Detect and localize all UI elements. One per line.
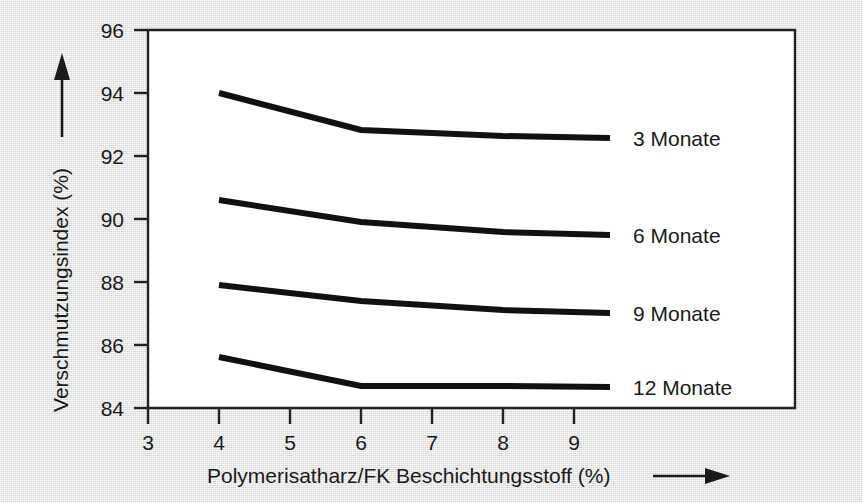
series-label-12-monate: 12 Monate bbox=[633, 376, 732, 399]
y-tick-label: 86 bbox=[101, 334, 124, 357]
y-tick-label: 94 bbox=[101, 82, 125, 105]
y-tick-label: 92 bbox=[101, 145, 124, 168]
y-axis-up-arrow-icon bbox=[54, 53, 70, 137]
y-axis-ticks bbox=[134, 30, 148, 408]
x-axis-tick-labels: 3 4 5 6 7 8 9 bbox=[142, 431, 580, 454]
x-axis-title: Polymerisatharz/FK Beschichtungsstoff (%… bbox=[207, 464, 610, 487]
y-tick-label: 96 bbox=[101, 19, 124, 42]
y-tick-label: 88 bbox=[101, 271, 124, 294]
series-label-6-monate: 6 Monate bbox=[633, 224, 721, 247]
x-tick-label: 6 bbox=[355, 431, 367, 454]
y-axis-title: Verschmutzungsindex (%) bbox=[49, 168, 72, 412]
x-tick-label: 4 bbox=[213, 431, 225, 454]
x-tick-label: 7 bbox=[426, 431, 438, 454]
x-tick-label: 3 bbox=[142, 431, 154, 454]
series-label-9-monate: 9 Monate bbox=[633, 302, 721, 325]
x-tick-label: 8 bbox=[497, 431, 509, 454]
x-tick-label: 5 bbox=[284, 431, 296, 454]
x-axis-ticks bbox=[148, 408, 574, 424]
y-axis-tick-labels: 96 94 92 90 88 86 84 bbox=[101, 19, 125, 420]
x-tick-label: 9 bbox=[568, 431, 580, 454]
y-tick-label: 84 bbox=[101, 397, 125, 420]
x-axis-right-arrow-icon bbox=[653, 468, 730, 484]
y-tick-label: 90 bbox=[101, 208, 124, 231]
plot-area bbox=[148, 30, 795, 408]
series-label-3-monate: 3 Monate bbox=[633, 127, 721, 150]
figure-background: 96 94 92 90 88 86 84 3 4 5 6 7 8 9 bbox=[0, 0, 863, 503]
line-chart: 96 94 92 90 88 86 84 3 4 5 6 7 8 9 bbox=[0, 0, 863, 503]
